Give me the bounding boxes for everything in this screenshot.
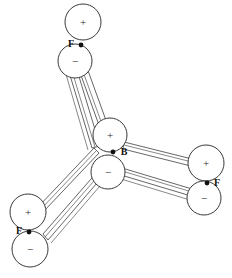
atom-fluorine-lower-left[interactable]: + − F <box>10 194 48 267</box>
fluorine-lower-left-element-label: F <box>16 225 22 236</box>
atom-fluorine-right[interactable]: + − F <box>187 145 224 215</box>
boron-element-label: B <box>121 146 128 157</box>
atom-fluorine-top[interactable]: + − F <box>58 4 101 78</box>
fluorine-top-positive-sign: + <box>80 16 86 28</box>
boron-positive-sign: + <box>107 129 113 141</box>
fluorine-lower-left-nucleus-dot <box>27 230 32 235</box>
fluorine-lower-left-negative-sign: − <box>27 243 33 255</box>
boron-nucleus-dot <box>111 150 116 155</box>
fluorine-right-element-label: F <box>214 177 220 188</box>
fluorine-right-negative-sign: − <box>201 192 207 204</box>
fluorine-right-positive-sign: + <box>203 157 209 169</box>
boron-negative-sign: − <box>105 166 111 178</box>
molecule-canvas: + − B + − F + − F + <box>0 0 232 278</box>
fluorine-top-element-label: F <box>68 38 74 49</box>
fluorine-lower-left-positive-sign: + <box>25 206 31 218</box>
fluorine-right-nucleus-dot <box>205 181 210 186</box>
fluorine-top-nucleus-dot <box>79 43 84 48</box>
fluorine-top-negative-sign: − <box>72 55 78 67</box>
bond-b-f-right <box>121 142 196 200</box>
molecule-figure: + − B + − F + − F + <box>0 0 232 278</box>
